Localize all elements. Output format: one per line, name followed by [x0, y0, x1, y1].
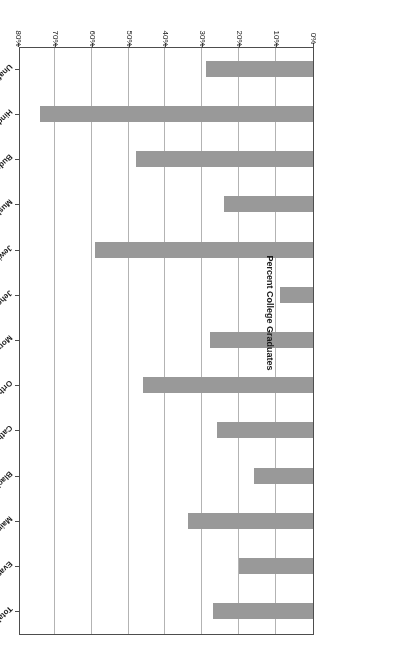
value-axis-tick-label: 30% [199, 19, 208, 59]
bar-row [20, 408, 313, 453]
category-axis-label: Buddhist [0, 152, 14, 183]
category-axis-label: Mainline [0, 514, 14, 543]
value-axis-tick-label: 0% [310, 19, 319, 59]
chart-figure: 0%10%20%30%40%50%60%70%80% Percent Colle… [0, 0, 396, 648]
bar [217, 422, 313, 438]
bar [210, 332, 313, 348]
bar-row [20, 91, 313, 136]
bar [254, 468, 313, 484]
bar-row [20, 498, 313, 543]
value-axis-tick-label: 20% [236, 19, 245, 59]
category-axis-tick-mark [15, 476, 19, 477]
category-axis-label: Muslim [0, 198, 14, 224]
bar [239, 558, 313, 574]
category-axis-tick-mark [15, 295, 19, 296]
category-axis-tick-mark [15, 250, 19, 251]
chart-area: 0%10%20%30%40%50%60%70%80% Percent Colle… [19, 13, 314, 635]
bar-row [20, 136, 313, 181]
category-axis-label: Evangelicals [0, 559, 14, 600]
value-axis-tick-label: 50% [125, 19, 134, 59]
value-axis-tick-label: 10% [273, 19, 282, 59]
bar-row [20, 589, 313, 634]
bar [280, 287, 313, 303]
category-axis-label: Catholic [0, 424, 14, 453]
value-axis-tick-label: 80% [15, 19, 24, 59]
category-axis-tick-mark [15, 159, 19, 160]
category-axis-tick-mark [15, 69, 19, 70]
bar [95, 242, 313, 258]
bar-row [20, 544, 313, 589]
value-axis-title: Percent College Graduates [265, 213, 275, 413]
value-axis-tick-label: 40% [162, 19, 171, 59]
category-axis-tick-mark [15, 340, 19, 341]
category-axis-tick-mark [15, 114, 19, 115]
bar [40, 106, 313, 122]
category-axis-label: Mormons [0, 333, 14, 365]
bar [188, 513, 313, 529]
category-axis-label: Total Population [0, 605, 14, 648]
category-axis-label: Orthodox [0, 379, 14, 411]
bar [206, 61, 313, 77]
category-axis-label: Jewish [0, 243, 14, 268]
value-axis-tick-label: 60% [88, 19, 97, 59]
bar [143, 377, 313, 393]
category-axis-tick-mark [15, 204, 19, 205]
bar [213, 603, 313, 619]
category-axis-tick-mark [15, 521, 19, 522]
value-axis-tick-label: 70% [51, 19, 60, 59]
category-axis-label: Hindu [0, 107, 14, 129]
category-axis-tick-mark [15, 430, 19, 431]
bar [225, 196, 314, 212]
category-axis-tick-mark [15, 566, 19, 567]
category-axis-tick-mark [15, 611, 19, 612]
category-axis-label: Unaffiliated [0, 62, 14, 99]
bar-row [20, 453, 313, 498]
category-axis-tick-mark [15, 385, 19, 386]
bar [136, 151, 313, 167]
